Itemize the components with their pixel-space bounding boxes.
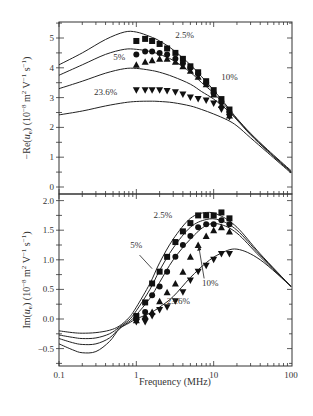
data-point-triangle-up (149, 57, 156, 64)
data-point-triangle-up (203, 233, 210, 240)
data-point-circle (218, 217, 224, 223)
series-annotation: 5% (130, 240, 143, 250)
data-point-triangle-down (187, 95, 194, 102)
data-point-circle (187, 233, 193, 239)
data-point-circle (195, 224, 201, 230)
data-point-square (157, 269, 163, 275)
data-point-square (195, 212, 201, 218)
data-point-triangle-down (156, 307, 163, 314)
model-curve (59, 101, 291, 173)
y-tick-label: 0.0 (43, 314, 55, 324)
data-point-triangle-up (142, 58, 149, 64)
data-point-square (172, 50, 178, 56)
x-tick-label: 1 (134, 370, 139, 380)
x-tick-label: 0.1 (53, 370, 64, 380)
data-point-triangle-up (156, 298, 163, 305)
data-point-square (211, 212, 217, 218)
data-point-square (203, 212, 209, 218)
data-point-triangle-up (226, 228, 233, 235)
data-point-circle (149, 292, 155, 298)
data-point-triangle-down (179, 92, 186, 99)
data-point-triangle-down (195, 96, 202, 103)
data-point-square (218, 209, 224, 215)
data-point-circle (211, 221, 217, 227)
y-tick-label: 4 (50, 63, 55, 73)
data-point-triangle-down (156, 87, 163, 94)
data-point-triangle-down (149, 313, 156, 320)
data-point-triangle-down (210, 257, 217, 264)
top-panel: 0123452.5%5%10%23.6% (50, 22, 293, 194)
data-point-triangle-down (203, 263, 210, 270)
bottom-panel: −0.50.00.51.01.52.02.5%5%10%23.6% (38, 194, 292, 366)
data-point-square (142, 36, 148, 42)
annotation-leader (140, 255, 153, 269)
model-curve (59, 49, 291, 172)
data-point-square (142, 299, 148, 305)
data-point-square (187, 220, 193, 226)
bottom-y-axis-title: Im(ue) (10−8 m2 V−1 s−1) (20, 231, 34, 328)
y-tick-label: 2.0 (43, 196, 55, 206)
plot-frame (59, 194, 292, 366)
y-tick-label: 1.0 (43, 255, 55, 265)
y-tick-label: 1 (50, 152, 55, 162)
data-point-triangle-down (142, 87, 149, 94)
data-point-triangle-up (164, 289, 171, 296)
data-point-triangle-down (149, 87, 156, 94)
data-point-circle (157, 50, 163, 56)
data-point-triangle-down (210, 101, 217, 108)
x-axis-title: Frequency (MHz) (139, 376, 211, 388)
data-point-square (157, 41, 163, 47)
y-tick-label: −0.5 (38, 344, 55, 354)
y-tick-label: 0.5 (43, 284, 55, 294)
data-point-triangle-up (195, 242, 202, 249)
series-annotation: 5% (113, 52, 126, 62)
data-point-triangle-down (226, 251, 233, 258)
series-annotation: 10% (202, 278, 219, 288)
data-point-triangle-down (203, 98, 210, 105)
y-tick-label: 2 (50, 122, 55, 132)
y-tick-label: 5 (50, 33, 55, 43)
data-point-square (172, 239, 178, 245)
data-point-square (164, 254, 170, 260)
data-point-square (226, 215, 232, 221)
top-y-axis-title: −Re(ue) (10−8 m2 V−1 s−1) (20, 57, 34, 160)
data-point-circle (203, 221, 209, 227)
data-point-triangle-up (187, 253, 194, 260)
data-point-circle (133, 51, 139, 57)
data-point-triangle-down (179, 289, 186, 296)
data-point-circle (157, 283, 163, 289)
y-tick-label: 0 (50, 182, 55, 192)
series-annotation: 10% (221, 72, 238, 82)
data-point-triangle-down (164, 88, 171, 95)
model-curve (59, 212, 291, 333)
x-tick-label: 100 (284, 370, 298, 380)
data-point-circle (180, 242, 186, 248)
data-point-triangle-down (133, 87, 140, 94)
data-point-square (180, 228, 186, 234)
y-tick-label: 1.5 (43, 225, 55, 235)
series-annotation: 2.5% (153, 210, 172, 220)
chart-figure: 0123452.5%5%10%23.6% −0.50.00.51.01.52.0… (0, 0, 313, 416)
data-point-triangle-down (142, 319, 149, 326)
data-point-triangle-up (156, 55, 163, 62)
y-tick-label: 3 (50, 93, 55, 103)
data-point-circle (149, 48, 155, 54)
data-point-triangle-down (218, 107, 225, 114)
data-point-square (149, 280, 155, 286)
data-point-triangle-up (218, 224, 225, 231)
data-point-triangle-up (210, 227, 217, 234)
data-point-circle (164, 269, 170, 275)
series-annotation: 2.5% (175, 30, 194, 40)
data-point-square (133, 38, 139, 44)
data-point-triangle-up (172, 280, 179, 287)
data-point-triangle-up (133, 61, 140, 68)
data-point-triangle-up (179, 268, 186, 275)
series-annotation: 23.6% (167, 296, 191, 306)
data-point-circle (226, 221, 232, 227)
data-point-triangle-down (172, 89, 179, 96)
data-point-square (164, 45, 170, 51)
data-point-circle (142, 48, 148, 54)
model-curve (59, 68, 291, 172)
data-point-square (149, 38, 155, 44)
data-point-circle (172, 254, 178, 260)
